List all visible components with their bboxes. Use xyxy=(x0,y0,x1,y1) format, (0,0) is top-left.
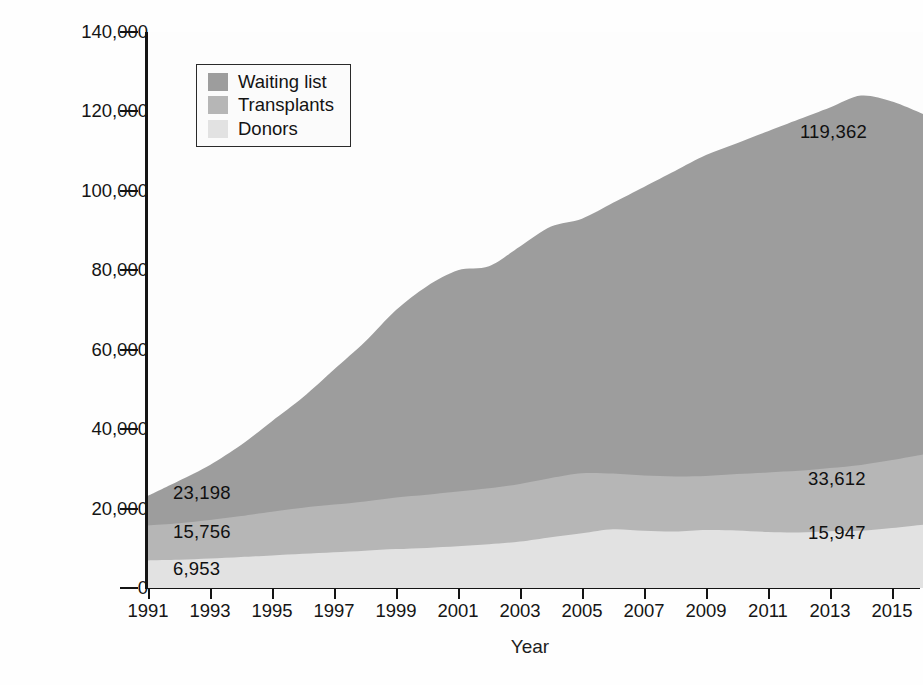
y-tick-mark xyxy=(120,428,138,430)
y-tick-mark xyxy=(120,508,138,510)
x-tick-label: 2005 xyxy=(547,600,617,622)
x-tick-label: 1995 xyxy=(237,600,307,622)
x-tick-mark xyxy=(396,588,398,599)
legend-swatch-icon xyxy=(208,73,228,91)
y-tick: 40,000 xyxy=(0,429,148,430)
callout-waiting-list-2016: 119,362 xyxy=(800,121,867,143)
x-tick-mark xyxy=(334,588,336,599)
legend-item-transplants: Transplants xyxy=(208,95,334,114)
x-tick-mark xyxy=(582,588,584,599)
x-tick-mark xyxy=(458,588,460,599)
callout-transplants-1991: 15,756 xyxy=(173,521,231,543)
x-tick-mark xyxy=(272,588,274,599)
legend-item-waiting-list: Waiting list xyxy=(208,72,334,91)
x-tick-mark xyxy=(644,588,646,599)
x-tick-label: 2003 xyxy=(485,600,555,622)
legend-item-donors: Donors xyxy=(208,119,334,138)
x-tick-label: 1997 xyxy=(299,600,369,622)
x-tick-mark xyxy=(768,588,770,599)
x-tick-label: 2007 xyxy=(609,600,679,622)
x-tick-mark xyxy=(706,588,708,599)
x-tick-mark xyxy=(148,588,150,599)
y-tick: 120,000 xyxy=(0,111,148,112)
y-tick-mark xyxy=(120,269,138,271)
x-tick-label: 2009 xyxy=(671,600,741,622)
legend-item-label: Waiting list xyxy=(238,72,327,91)
x-tick-label: 1993 xyxy=(175,600,245,622)
y-tick: 100,000 xyxy=(0,191,148,192)
x-axis-title: Year xyxy=(140,636,920,658)
y-tick-mark xyxy=(120,190,138,192)
x-tick-mark xyxy=(830,588,832,599)
callout-donors-2016: 15,947 xyxy=(808,522,866,544)
callout-transplants-2016: 33,612 xyxy=(808,468,866,490)
callout-donors-1991: 6,953 xyxy=(173,558,220,580)
callout-waiting-list-1991: 23,198 xyxy=(173,482,231,504)
y-tick-mark xyxy=(120,349,138,351)
y-tick-mark xyxy=(120,31,138,33)
x-tick-label: 2011 xyxy=(733,600,803,622)
legend-item-label: Donors xyxy=(238,119,298,138)
legend-swatch-icon xyxy=(208,96,228,114)
x-tick-label: 1999 xyxy=(361,600,431,622)
x-tick-label: 2013 xyxy=(795,600,865,622)
chart-legend: Waiting listTransplantsDonors xyxy=(196,64,351,147)
y-tick: 140,000 xyxy=(0,32,148,33)
y-tick: 0 xyxy=(0,588,148,589)
y-tick: 20,000 xyxy=(0,509,148,510)
y-tick: 60,000 xyxy=(0,350,148,351)
legend-swatch-icon xyxy=(208,120,228,138)
x-tick-mark xyxy=(892,588,894,599)
x-tick-label: 2001 xyxy=(423,600,493,622)
y-tick-mark xyxy=(120,587,138,589)
x-tick-label: 2015 xyxy=(857,600,923,622)
x-tick-mark xyxy=(520,588,522,599)
x-tick-label: 1991 xyxy=(113,600,183,622)
y-tick-mark xyxy=(120,110,138,112)
y-tick: 80,000 xyxy=(0,270,148,271)
area-chart-figure: Number of people Year 140,000120,000100,… xyxy=(0,0,923,685)
legend-item-label: Transplants xyxy=(238,95,334,114)
x-tick-mark xyxy=(210,588,212,599)
